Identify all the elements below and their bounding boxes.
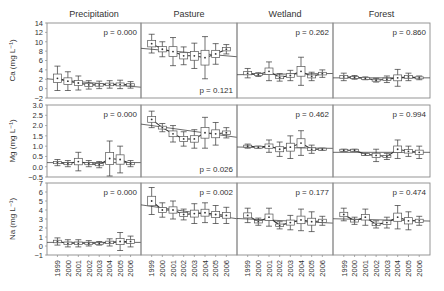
data-point	[77, 161, 79, 163]
data-point	[247, 215, 249, 217]
data-point	[343, 76, 345, 78]
panel-wetland-mg: p = 0.462	[237, 105, 333, 177]
data-point	[343, 149, 345, 151]
panel-forest-ca: p = 0.860	[333, 23, 430, 98]
x-tick-label: 2002	[372, 260, 381, 277]
x-tick-label: 2003	[383, 260, 392, 277]
data-point	[130, 84, 132, 86]
p-value-label: p = 0.860	[392, 28, 426, 37]
y-tick-label: 3	[39, 215, 43, 224]
y-tick-label: 12	[35, 28, 43, 37]
data-point	[57, 162, 59, 164]
x-tick-label: 2001	[74, 260, 83, 277]
data-point	[183, 214, 185, 216]
data-point	[354, 149, 356, 151]
x-tick-label: 2006	[415, 260, 424, 277]
data-point	[204, 57, 206, 59]
data-point	[88, 242, 90, 244]
y-tick-label: 1.0	[33, 142, 43, 151]
data-point	[300, 142, 302, 144]
data-point	[225, 215, 227, 217]
data-point	[289, 75, 291, 77]
data-point	[311, 221, 313, 223]
data-point	[119, 241, 121, 243]
data-point	[151, 43, 153, 45]
column-title: Forest	[369, 9, 395, 19]
data-point	[172, 51, 174, 53]
panel-precipitation-ca: p = 0.000	[47, 23, 141, 98]
p-value-label: p = 0.000	[103, 188, 137, 197]
data-point	[98, 84, 100, 86]
x-tick-label: 2001	[361, 260, 370, 277]
y-axis-label: Na (mg L⁻¹)	[8, 198, 17, 241]
y-tick-label: 0.0	[33, 163, 43, 172]
data-point	[279, 224, 281, 226]
panel-pasture-ca: p = 0.121	[141, 23, 237, 98]
data-point	[397, 216, 399, 218]
data-point	[215, 133, 217, 135]
y-tick-label: 2	[39, 75, 43, 84]
data-point	[172, 209, 174, 211]
data-point	[279, 76, 281, 78]
y-tick-label: 8	[39, 47, 43, 56]
p-value-label: p = 0.121	[199, 86, 233, 95]
data-point	[247, 72, 249, 74]
data-point	[130, 241, 132, 243]
x-tick-label: 2003	[286, 260, 295, 277]
x-tick-label: 2002	[179, 260, 188, 277]
panel-precipitation-na: p = 0.000	[47, 183, 141, 255]
data-point	[215, 53, 217, 55]
data-point	[257, 74, 259, 76]
data-point	[364, 216, 366, 218]
data-point	[183, 55, 185, 57]
data-point	[300, 219, 302, 221]
data-point	[268, 70, 270, 72]
data-point	[279, 148, 281, 150]
data-point	[300, 70, 302, 72]
y-tick-label: 1.5	[33, 132, 43, 141]
data-point	[386, 156, 388, 158]
data-point	[408, 76, 410, 78]
column-title: Precipitation	[69, 9, 119, 19]
x-tick-label: 2001	[265, 260, 274, 277]
x-tick-label: 2003	[190, 260, 199, 277]
data-point	[418, 77, 420, 79]
x-tick-label: 2004	[201, 260, 210, 277]
data-point	[321, 220, 323, 222]
data-point	[257, 221, 259, 223]
column-title: Pasture	[173, 9, 204, 19]
data-point	[311, 76, 313, 78]
p-value-label: p = 0.994	[392, 110, 426, 119]
data-point	[397, 148, 399, 150]
panel-precipitation-mg: p = 0.000	[47, 105, 141, 177]
x-tick-label: 2003	[95, 260, 104, 277]
p-value-label: p = 0.177	[295, 188, 329, 197]
x-tick-label: 2002	[85, 260, 94, 277]
p-value-label: p = 0.474	[392, 188, 426, 197]
y-axis-label: Ca (mg L⁻¹)	[8, 39, 17, 82]
data-point	[151, 119, 153, 121]
data-point	[408, 150, 410, 152]
data-point	[67, 80, 69, 82]
data-point	[418, 220, 420, 222]
data-point	[408, 220, 410, 222]
y-tick-label: 10	[35, 38, 43, 47]
x-tick-label: 2000	[254, 260, 263, 277]
x-tick-label: 1999	[147, 260, 156, 277]
data-point	[375, 79, 377, 81]
data-point	[193, 213, 195, 215]
data-point	[204, 212, 206, 214]
data-point	[321, 148, 323, 150]
data-point	[67, 163, 69, 165]
x-tick-label: 2005	[404, 260, 413, 277]
x-tick-label: 2006	[222, 260, 231, 277]
x-tick-label: 2000	[158, 260, 167, 277]
data-point	[130, 163, 132, 165]
data-point	[215, 214, 217, 216]
data-point	[257, 146, 259, 148]
x-tick-label: 2006	[126, 260, 135, 277]
x-tick-label: 2006	[318, 260, 327, 277]
y-tick-label: 0.5	[33, 152, 43, 161]
data-point	[343, 214, 345, 216]
data-point	[77, 242, 79, 244]
